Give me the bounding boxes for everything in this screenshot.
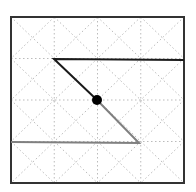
black-path <box>54 59 184 100</box>
center-dot <box>92 95 102 105</box>
grid-diagram <box>0 0 196 192</box>
gray-path <box>11 100 139 143</box>
